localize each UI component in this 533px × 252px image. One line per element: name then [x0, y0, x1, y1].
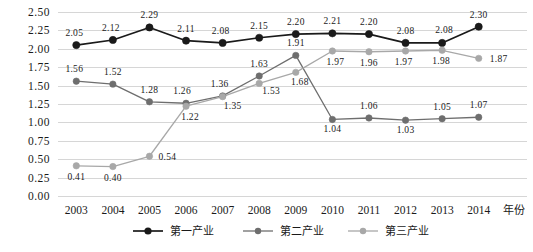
value-label-s2-2014: 1.07 — [470, 100, 488, 110]
data-point-s3-2013 — [439, 47, 445, 53]
x-tick-2008: 2008 — [248, 204, 271, 216]
y-tick-1.25: 1.25 — [28, 98, 50, 110]
value-label-s2-2004: 1.52 — [104, 67, 122, 77]
legend-marker-2 — [255, 228, 261, 234]
x-tick-2012: 2012 — [394, 204, 417, 216]
value-label-s1-2009: 2.20 — [287, 17, 305, 27]
value-label-s3-2005: 0.54 — [159, 152, 177, 162]
x-tick-2006: 2006 — [175, 204, 198, 216]
value-label-s3-2006: 1.22 — [181, 112, 199, 122]
value-label-s1-2005: 2.29 — [141, 10, 159, 20]
y-tick-1.50: 1.50 — [28, 80, 50, 92]
value-label-s2-2005: 1.28 — [141, 85, 159, 95]
data-point-s3-2012 — [402, 48, 408, 54]
data-point-s3-2005 — [146, 153, 152, 159]
data-point-s1-2007 — [219, 39, 226, 46]
y-tick-0.75: 0.75 — [28, 135, 50, 147]
data-point-s3-2011 — [366, 49, 372, 55]
data-point-s3-2010 — [329, 48, 335, 54]
value-label-s2-2006: 1.26 — [173, 86, 191, 96]
x-tick-2003: 2003 — [65, 204, 88, 216]
data-point-s1-2013 — [439, 39, 446, 46]
data-point-s2-2009 — [293, 52, 299, 58]
x-tick-2010: 2010 — [321, 204, 344, 216]
data-point-s1-2011 — [365, 30, 372, 37]
legend-label-1[interactable]: 第一产业 — [170, 224, 214, 237]
data-point-s3-2004 — [110, 163, 116, 169]
x-tick-2013: 2013 — [431, 204, 454, 216]
y-tick-1.00: 1.00 — [28, 116, 50, 128]
value-label-s1-2008: 2.15 — [250, 21, 268, 31]
value-label-s2-2013: 1.05 — [433, 102, 451, 112]
data-point-s2-2010 — [329, 116, 335, 122]
x-tick-2014: 2014 — [467, 204, 490, 216]
value-label-s2-2003: 1.56 — [65, 64, 83, 74]
data-point-s1-2010 — [329, 30, 336, 37]
value-label-s3-2013: 1.98 — [432, 56, 450, 66]
x-tick-2011: 2011 — [358, 204, 381, 216]
x-tick-2004: 2004 — [101, 204, 124, 216]
legend-label-3[interactable]: 第三产业 — [385, 224, 429, 237]
data-point-s1-2009 — [292, 30, 299, 37]
legend-marker-1 — [144, 227, 151, 234]
x-axis-title: 年份 — [503, 203, 525, 216]
value-label-s1-2013: 2.08 — [435, 25, 453, 35]
data-point-s1-2003 — [73, 42, 80, 49]
value-label-s3-2007: 1.35 — [224, 101, 242, 111]
data-point-s1-2012 — [402, 39, 409, 46]
data-point-s2-2014 — [476, 114, 482, 120]
value-label-s1-2014: 2.30 — [470, 10, 488, 20]
x-tick-2007: 2007 — [211, 204, 234, 216]
value-label-s1-2006: 2.11 — [177, 24, 194, 34]
value-label-s1-2004: 2.12 — [102, 23, 120, 33]
value-label-s2-2007: 1.36 — [211, 79, 229, 89]
x-axis-tick-labels: 2003200420052006200720082009201020112012… — [65, 204, 491, 216]
value-label-s1-2010: 2.21 — [323, 16, 341, 26]
chart-legend: 第一产业第二产业第三产业 — [133, 224, 429, 237]
value-label-s3-2011: 1.96 — [360, 58, 378, 68]
data-point-s2-2011 — [366, 115, 372, 121]
data-point-s2-2003 — [73, 78, 79, 84]
value-label-s3-2008: 1.53 — [262, 86, 280, 96]
value-label-s1-2003: 2.05 — [65, 28, 83, 38]
value-label-s3-2004: 0.40 — [104, 173, 122, 183]
value-label-s3-2014: 1.87 — [490, 54, 508, 64]
data-point-s3-2007 — [219, 93, 225, 99]
y-tick-0.25: 0.25 — [28, 172, 50, 184]
value-label-s2-2010: 1.04 — [323, 124, 341, 134]
value-label-s3-2009: 1.68 — [291, 77, 309, 87]
data-point-s1-2005 — [146, 24, 153, 31]
value-label-s1-2007: 2.08 — [212, 26, 230, 36]
data-point-s3-2003 — [73, 163, 79, 169]
industry-ratio-line-chart: 0.000.250.500.751.001.251.501.752.002.25… — [0, 0, 533, 252]
data-point-s1-2006 — [182, 37, 189, 44]
value-label-s2-2008: 1.63 — [250, 59, 268, 69]
value-label-s3-2003: 0.41 — [67, 172, 85, 182]
value-label-s1-2011: 2.20 — [360, 17, 378, 27]
legend-label-2[interactable]: 第二产业 — [280, 224, 324, 237]
x-tick-2005: 2005 — [138, 204, 161, 216]
y-tick-2.00: 2.00 — [28, 43, 50, 55]
data-point-s1-2014 — [475, 23, 482, 30]
y-tick-2.50: 2.50 — [28, 6, 50, 18]
value-label-s2-2009: 1.91 — [287, 38, 305, 48]
series-line-1 — [76, 27, 478, 45]
data-point-s2-2004 — [110, 81, 116, 87]
data-point-s2-2012 — [402, 117, 408, 123]
chart-series-points — [73, 23, 483, 170]
y-tick-1.75: 1.75 — [28, 61, 50, 73]
data-point-s3-2009 — [293, 69, 299, 75]
data-point-s3-2014 — [476, 55, 482, 61]
data-point-s2-2008 — [256, 73, 262, 79]
value-label-s2-2011: 1.06 — [360, 101, 378, 111]
y-tick-2.25: 2.25 — [28, 24, 50, 36]
line-chart-container: 0.000.250.500.751.001.251.501.752.002.25… — [0, 0, 533, 252]
data-point-s3-2006 — [183, 103, 189, 109]
data-point-s1-2008 — [256, 34, 263, 41]
data-point-s2-2013 — [439, 116, 445, 122]
y-tick-0.50: 0.50 — [28, 153, 50, 165]
x-tick-2009: 2009 — [284, 204, 307, 216]
legend-marker-3 — [360, 228, 366, 234]
value-label-s1-2012: 2.08 — [397, 26, 415, 36]
y-tick-0.00: 0.00 — [28, 190, 50, 202]
